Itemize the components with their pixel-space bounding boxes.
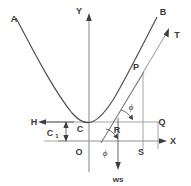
label-tangent-end: T bbox=[174, 30, 180, 40]
label-dimension-c1: C 1 bbox=[47, 128, 60, 139]
label-angle-upper: ϕ bbox=[129, 102, 134, 112]
y-axis bbox=[86, 13, 92, 172]
label-horizontal-force: H bbox=[31, 117, 38, 127]
label-curve-right-end: B bbox=[160, 7, 167, 17]
label-origin: O bbox=[75, 147, 82, 157]
label-dimension-c1-main: C bbox=[47, 128, 54, 138]
label-axis-x: X bbox=[170, 136, 176, 146]
cable-force-diagram: A B T P Y X H C O R Q S ϕ ϕ ws C 1 bbox=[0, 0, 191, 186]
x-axis bbox=[58, 138, 167, 144]
h-arrowhead bbox=[38, 119, 46, 125]
label-vertical-load: ws bbox=[112, 175, 124, 184]
label-dimension-c1-subscript: 1 bbox=[55, 133, 59, 139]
y-axis-arrowhead bbox=[86, 13, 92, 21]
ws-arrowhead bbox=[115, 162, 121, 170]
x-axis-arrowhead bbox=[159, 138, 167, 144]
diagram-canvas: A B T P Y X H C O R Q S ϕ ϕ ws C 1 bbox=[0, 0, 191, 186]
label-point-q: Q bbox=[158, 117, 165, 127]
label-point-s: S bbox=[138, 147, 144, 157]
label-lowest-point: C bbox=[77, 124, 84, 134]
label-angle-lower: ϕ bbox=[103, 148, 108, 158]
label-axis-y: Y bbox=[76, 6, 82, 16]
label-curve-left-end: A bbox=[11, 14, 18, 24]
label-point-p: P bbox=[133, 62, 139, 72]
label-point-r: R bbox=[114, 125, 121, 135]
horizontal-force-arrow bbox=[38, 119, 74, 125]
